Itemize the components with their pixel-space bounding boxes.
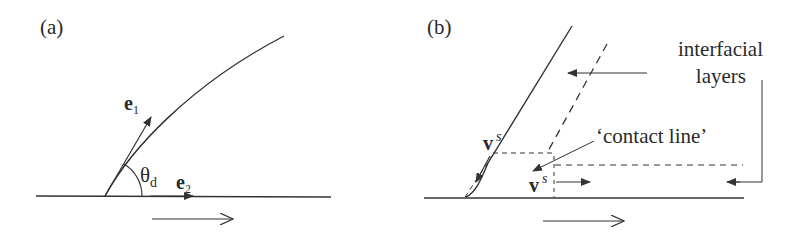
e1-label: e1 bbox=[124, 92, 139, 117]
slip-velocity-arrow-upper bbox=[476, 156, 490, 182]
e2-label: e2 bbox=[176, 171, 191, 196]
upper-slip-velocity-label: vs bbox=[483, 129, 502, 154]
panel-a: (a) e1 θd e2 bbox=[36, 15, 331, 219]
contact-line-pointer bbox=[533, 141, 594, 171]
panel-a-label: (a) bbox=[40, 15, 63, 39]
lower-slip-velocity-label: vs bbox=[529, 171, 548, 196]
interfacial-label-line1: interfacial bbox=[678, 37, 763, 61]
interface-curve bbox=[105, 36, 284, 196]
contact-line-label: ‘contact line’ bbox=[596, 124, 707, 148]
interfacial-bracket-arrow bbox=[728, 80, 762, 182]
diagram-canvas: (a) e1 θd e2 (b) interfacial layers ‘c bbox=[0, 0, 791, 237]
panel-b: (b) interfacial layers ‘contact line’ vs… bbox=[424, 15, 763, 221]
panel-b-label: (b) bbox=[427, 15, 452, 39]
theta-d-label: θd bbox=[140, 163, 157, 190]
interfacial-label-line2: layers bbox=[696, 64, 746, 88]
